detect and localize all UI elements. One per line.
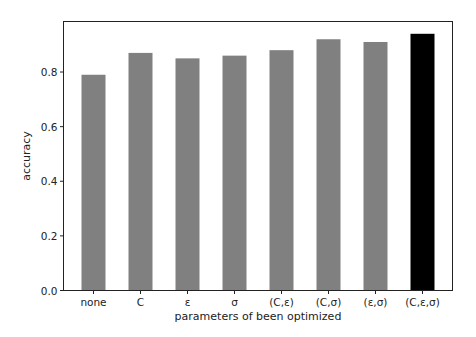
x-tick-label: none: [80, 296, 106, 308]
bars-group: [82, 34, 435, 291]
x-tick-label: C: [137, 296, 144, 308]
y-tick-label: 0.4: [41, 175, 58, 187]
x-axis: noneCεσ(C,ε)(C,σ)(ε,σ)(C,ε,σ): [80, 291, 439, 308]
bar: [270, 50, 294, 290]
bar: [129, 53, 153, 291]
x-tick-label: σ: [231, 296, 238, 308]
x-tick-label: ε: [185, 296, 191, 308]
y-tick-label: 0.8: [41, 66, 58, 78]
plot-frame: [64, 22, 453, 291]
bar: [364, 42, 388, 291]
x-tick-label: (C,σ): [316, 296, 342, 308]
y-axis: 0.00.20.40.60.8: [41, 66, 64, 296]
bar: [411, 34, 435, 291]
y-tick-label: 0.2: [41, 230, 58, 242]
bar: [317, 39, 341, 290]
x-tick-label: (C,ε,σ): [405, 296, 440, 308]
bar: [223, 56, 247, 291]
x-tick-label: (ε,σ): [364, 296, 388, 308]
y-axis-label: accuracy: [20, 131, 33, 181]
y-tick-label: 0.0: [41, 285, 58, 297]
bar: [82, 75, 106, 291]
bar: [176, 58, 200, 290]
bar-chart: 0.00.20.40.60.8 noneCεσ(C,ε)(C,σ)(ε,σ)(C…: [0, 0, 476, 337]
x-axis-label: parameters of been optimized: [175, 310, 342, 323]
x-tick-label: (C,ε): [269, 296, 294, 308]
y-tick-label: 0.6: [41, 121, 58, 133]
